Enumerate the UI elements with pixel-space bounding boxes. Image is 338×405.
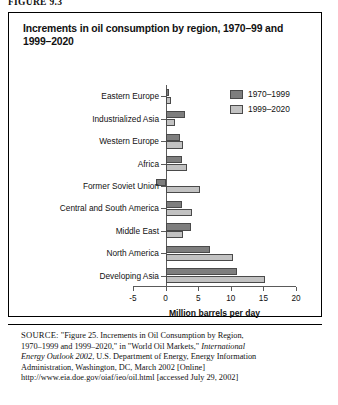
legend-swatch-icon-1970-1999	[230, 90, 243, 99]
bar-0	[166, 89, 169, 96]
bar-0	[166, 246, 210, 253]
chart-title: Increments in oil consumption by region,…	[23, 22, 308, 48]
bar-0	[166, 111, 186, 118]
bar-1	[166, 164, 188, 171]
x-tick-mark	[231, 287, 232, 291]
y-axis-label: Middle East	[116, 226, 159, 236]
legend-item-1999-2020: 1999–2020	[230, 104, 290, 114]
source-line-2a: 1970–1999 and 1999–2020," in "World Oil …	[21, 342, 201, 351]
y-axis-label: Eastern Europe	[101, 91, 159, 101]
y-tick-mark	[161, 231, 166, 232]
chart-figure-frame: Increments in oil consumption by region,…	[8, 12, 322, 317]
source-line-3b: , U.S. Department of Energy, Energy Info…	[92, 352, 256, 361]
source-line-4: Administration, Washington, DC, March 20…	[21, 363, 205, 372]
x-tick-mark	[133, 287, 134, 291]
bar-1	[166, 186, 201, 193]
legend-item-1970-1999: 1970–1999	[230, 89, 290, 99]
y-axis-label: North America	[106, 248, 159, 258]
chart-legend: 1970–1999 1999–2020	[230, 89, 290, 119]
y-axis-label: Developing Asia	[99, 271, 159, 281]
x-tick-label: 10	[226, 294, 235, 303]
source-line-2-italic: International	[201, 342, 245, 351]
bar-0	[166, 268, 238, 275]
source-url: http://www.eia.doe.gov/oiaf/ieo/oil.html…	[21, 373, 238, 382]
x-tick-label: 5	[196, 294, 201, 303]
x-axis-title: Million barrels per day	[133, 308, 296, 318]
y-axis-label: Industrialized Asia	[92, 114, 159, 124]
bar-0	[166, 156, 182, 163]
y-tick-mark	[161, 276, 166, 277]
bar-1	[166, 231, 184, 238]
y-axis-label: Africa	[138, 159, 159, 169]
source-note: SOURCE: "Figure 25. Increments in Oil Co…	[21, 330, 321, 384]
x-tick-mark	[198, 287, 199, 291]
y-tick-mark	[161, 186, 166, 187]
bar-0	[166, 201, 182, 208]
x-tick-label: 20	[291, 294, 300, 303]
y-tick-mark	[161, 96, 166, 97]
source-divider	[8, 324, 322, 325]
legend-label-1999-2020: 1999–2020	[248, 104, 290, 114]
y-tick-mark	[161, 164, 166, 165]
source-label: SOURCE:	[21, 330, 59, 340]
bar-0	[166, 134, 180, 141]
x-tick-mark	[263, 287, 264, 291]
x-tick-mark	[296, 287, 297, 291]
legend-label-1970-1999: 1970–1999	[248, 89, 290, 99]
x-axis-line	[133, 286, 296, 287]
bar-1	[166, 97, 172, 104]
y-axis-label: Central and South America	[60, 203, 159, 213]
x-tick-label: 0	[163, 294, 168, 303]
source-line-3-italic: Energy Outlook 2002	[21, 352, 92, 361]
y-tick-mark	[161, 119, 166, 120]
x-tick-label: -5	[129, 294, 136, 303]
source-line-1: "Figure 25. Increments in Oil Consumptio…	[61, 331, 244, 340]
legend-swatch-icon-1999-2020	[230, 105, 243, 114]
bar-1	[166, 254, 233, 261]
bar-0	[166, 223, 191, 230]
x-tick-label: 15	[259, 294, 268, 303]
bar-1	[166, 276, 266, 283]
y-tick-mark	[161, 141, 166, 142]
y-axis-label: Western Europe	[99, 136, 159, 146]
figure-number: FIGURE 9.3	[8, 0, 62, 7]
y-axis-label: Former Soviet Union	[83, 181, 159, 191]
y-tick-mark	[161, 208, 166, 209]
bar-1	[166, 209, 192, 216]
bar-1	[166, 119, 175, 126]
bar-1	[166, 141, 183, 148]
x-tick-mark	[166, 287, 167, 291]
y-tick-mark	[161, 253, 166, 254]
